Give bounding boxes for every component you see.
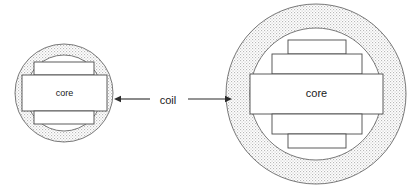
- diagram-canvas: core core coil: [0, 0, 415, 187]
- large-coil-figure: core: [0, 0, 415, 187]
- coil-core-diagram: core core coil: [0, 0, 415, 187]
- large-core-label: core: [306, 87, 327, 99]
- large-coil-band-lower-mid: [272, 114, 362, 134]
- coil-label: coil: [160, 94, 177, 106]
- large-coil-band-upper-mid: [272, 54, 362, 74]
- large-coil-band-top: [288, 40, 346, 54]
- large-coil-band-bottom: [288, 134, 346, 148]
